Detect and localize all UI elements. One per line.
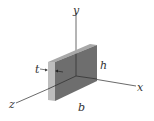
x-axis-label: x bbox=[137, 81, 144, 94]
y-axis-label: y bbox=[72, 4, 80, 17]
z-axis bbox=[16, 89, 48, 103]
thickness-label: t bbox=[35, 63, 40, 76]
plate-diagram: y x z t h b bbox=[0, 0, 154, 121]
width-label: b bbox=[78, 101, 85, 114]
arrow-head-icon bbox=[45, 69, 48, 72]
plate-side-face bbox=[48, 62, 55, 101]
z-axis-label: z bbox=[8, 98, 15, 111]
height-label: h bbox=[100, 59, 107, 72]
